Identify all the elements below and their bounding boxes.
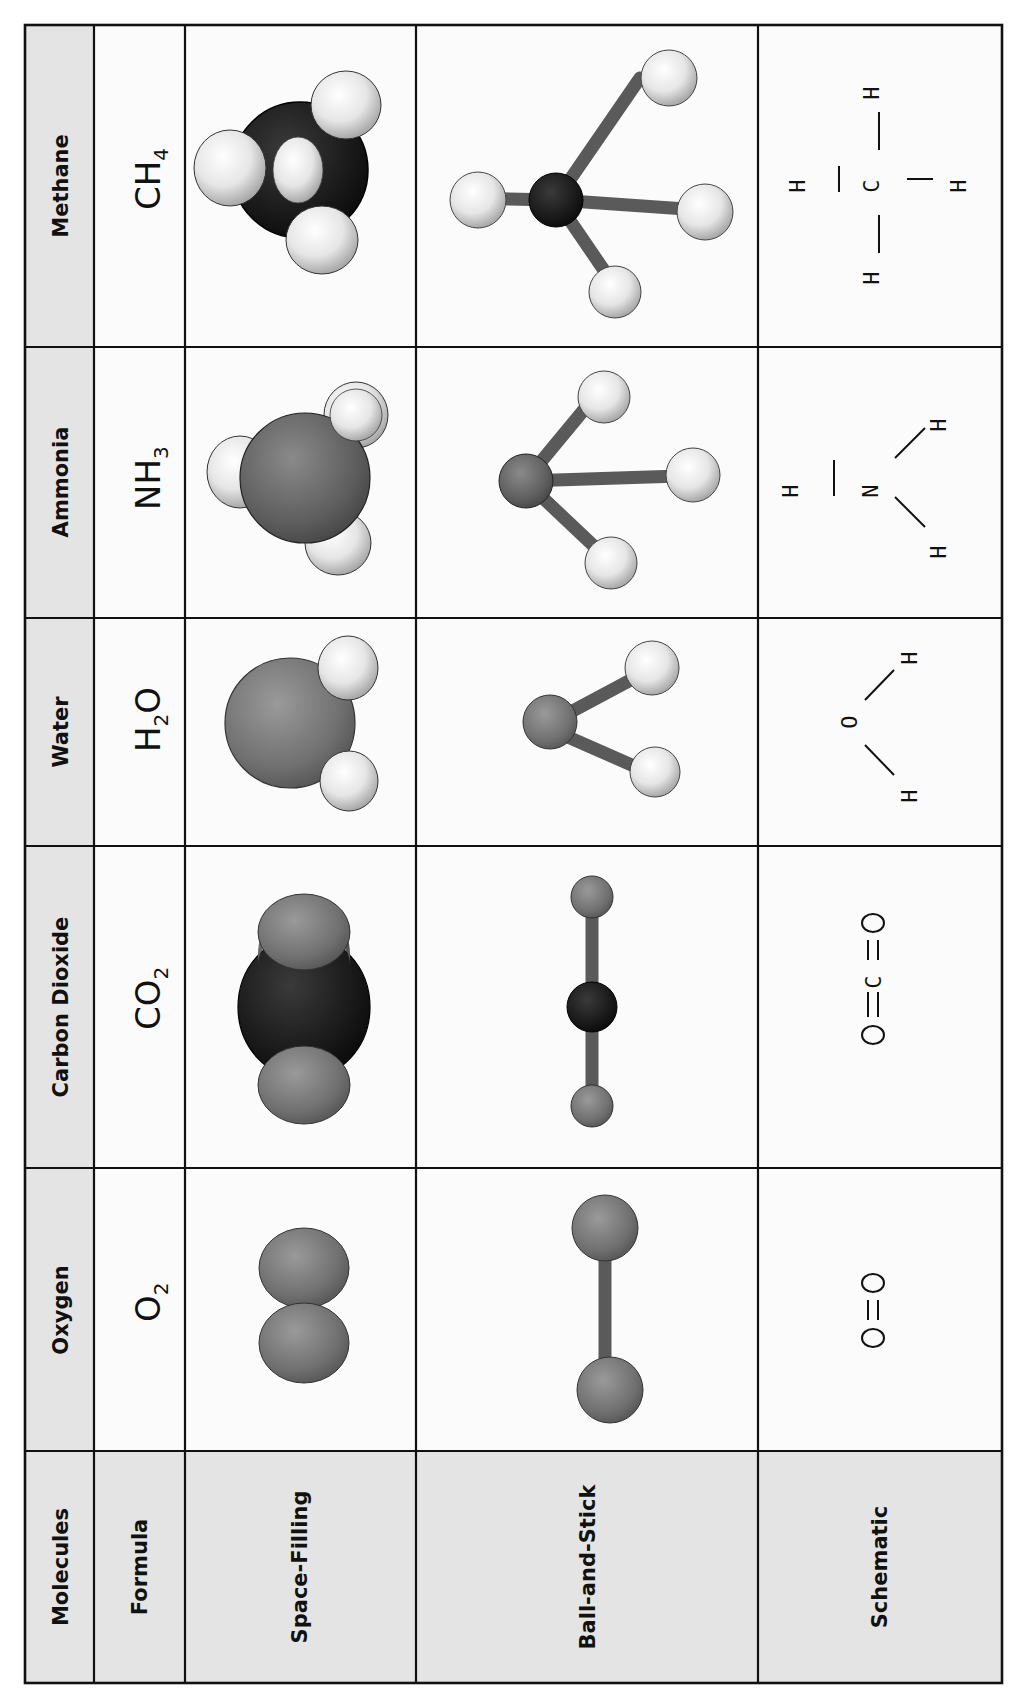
svg-text:C: C	[861, 975, 886, 988]
svg-text:H: H	[778, 484, 803, 497]
svg-text:H: H	[785, 179, 810, 192]
svg-text:H: H	[926, 545, 951, 558]
label-ball-and-stick: Ball-and-Stick	[576, 1484, 600, 1650]
label-row	[25, 1451, 1002, 1683]
molecule-name: Methane	[49, 134, 73, 238]
svg-text:C: C	[859, 179, 884, 192]
label-schematic: Schematic	[868, 1506, 892, 1629]
svg-text:H: H	[859, 86, 884, 99]
svg-text:H: H	[926, 418, 951, 431]
table-backgrounds	[25, 25, 1002, 1683]
svg-text:H: H	[897, 651, 922, 664]
header-strip	[25, 25, 94, 1683]
svg-text:H: H	[946, 179, 971, 192]
space-filling-model	[238, 894, 370, 1124]
svg-text:H: H	[859, 271, 884, 284]
label-formula: Formula	[128, 1519, 152, 1615]
svg-text:O: O	[837, 715, 862, 728]
molecule-table: Molecules Formula Space-Filling Ball-and…	[0, 0, 1015, 1703]
svg-text:N: N	[858, 484, 883, 497]
svg-text:H: H	[897, 789, 922, 802]
molecule-name: Carbon Dioxide	[49, 917, 73, 1098]
label-molecules: Molecules	[49, 1508, 73, 1626]
label-space-filling: Space-Filling	[288, 1491, 312, 1644]
molecule-name: Oxygen	[49, 1265, 73, 1354]
molecule-name: Water	[49, 696, 73, 768]
molecule-name: Ammonia	[49, 427, 73, 538]
